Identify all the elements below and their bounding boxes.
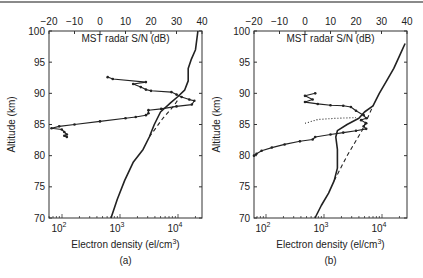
sn-profile-line <box>52 77 195 137</box>
data-marker <box>360 119 363 122</box>
data-marker <box>147 109 150 112</box>
top-tick-label: −20 <box>41 16 58 27</box>
top-tick-label: −10 <box>271 16 288 27</box>
density-profile-line <box>315 44 405 219</box>
data-marker <box>304 95 307 98</box>
data-marker <box>145 114 148 117</box>
top-tick-label: 0 <box>97 16 103 27</box>
data-marker <box>58 125 61 128</box>
data-marker <box>355 109 358 112</box>
data-marker <box>145 81 148 84</box>
data-marker <box>329 133 332 136</box>
y-tick-label: 75 <box>34 181 46 192</box>
y-tick-label: 95 <box>239 57 251 68</box>
top-axis-title: MST radar S/N (dB) <box>286 33 374 44</box>
top-axis-title: MST radar S/N (dB) <box>81 33 169 44</box>
data-marker <box>60 128 63 131</box>
data-marker <box>99 120 102 123</box>
top-tick-label: 10 <box>325 16 337 27</box>
top-tick-label: −10 <box>66 16 83 27</box>
data-marker <box>314 136 317 139</box>
bottom-tick-label: 104 <box>167 221 182 234</box>
data-marker <box>314 92 317 95</box>
y-tick-label: 80 <box>239 150 251 161</box>
data-marker <box>329 104 332 107</box>
data-marker <box>193 100 196 103</box>
data-marker <box>365 117 368 120</box>
y-tick-label: 75 <box>239 181 251 192</box>
panel-caption: (b) <box>324 255 336 266</box>
data-marker <box>50 127 53 130</box>
data-marker <box>106 76 109 79</box>
y-tick-label: 90 <box>239 88 251 99</box>
data-marker <box>175 93 178 96</box>
y-tick-label: 100 <box>233 26 250 37</box>
top-tick-label: 20 <box>145 16 157 27</box>
data-marker <box>188 98 191 101</box>
data-marker <box>311 98 314 101</box>
y-tick-label: 80 <box>34 150 46 161</box>
data-marker <box>66 133 69 136</box>
data-marker <box>124 117 127 120</box>
data-marker <box>170 91 173 94</box>
data-marker <box>175 105 178 108</box>
y-tick-label: 100 <box>28 26 45 37</box>
data-marker <box>63 131 66 134</box>
bottom-tick-label: 102 <box>255 221 270 234</box>
data-marker <box>140 86 143 89</box>
y-tick-label: 95 <box>34 57 46 68</box>
data-marker <box>342 131 345 134</box>
data-marker <box>73 123 76 126</box>
y-tick-label: 85 <box>34 119 46 130</box>
top-tick-label: 30 <box>171 16 183 27</box>
data-marker <box>311 138 314 141</box>
data-marker <box>191 103 194 106</box>
y-tick-label: 85 <box>239 119 251 130</box>
data-marker <box>150 90 153 93</box>
top-tick-label: 40 <box>401 16 413 27</box>
panel-caption: (a) <box>119 255 131 266</box>
data-marker <box>299 140 302 143</box>
top-tick-label: −20 <box>246 16 263 27</box>
data-marker <box>145 88 148 91</box>
data-marker <box>316 103 319 106</box>
data-marker <box>134 116 137 119</box>
figure-canvas: 707580859095100−20−10010203040102103104M… <box>0 0 423 278</box>
data-marker <box>260 149 263 152</box>
data-marker <box>180 96 183 99</box>
data-marker <box>147 112 150 115</box>
data-marker <box>304 101 307 104</box>
data-marker <box>283 143 286 146</box>
data-marker <box>365 122 368 125</box>
y-tick-label: 90 <box>34 88 46 99</box>
data-marker <box>271 146 274 149</box>
y-axis-title: Altitude (km) <box>6 96 17 152</box>
data-marker <box>365 128 368 131</box>
panel-a: 707580859095100−20−10010203040102103104M… <box>6 16 208 266</box>
density-dashed-line <box>334 106 373 181</box>
data-marker <box>160 108 163 111</box>
data-marker <box>342 105 345 108</box>
y-tick-label: 70 <box>239 213 251 224</box>
data-marker <box>132 83 135 86</box>
y-tick-label: 70 <box>34 213 46 224</box>
bottom-tick-label: 102 <box>51 221 66 234</box>
data-marker <box>253 154 256 157</box>
data-marker <box>255 152 258 155</box>
bottom-axis-title: Electron density (el/cm3) <box>276 238 384 250</box>
top-tick-label: 20 <box>350 16 362 27</box>
top-tick-label: 0 <box>302 16 308 27</box>
density-profile-line <box>111 31 198 218</box>
top-tick-label: 30 <box>376 16 388 27</box>
data-marker <box>362 114 365 117</box>
density-dashed-line <box>149 100 178 137</box>
data-marker <box>66 136 69 139</box>
data-marker <box>350 106 353 109</box>
data-marker <box>362 125 365 128</box>
y-axis-title: Altitude (km) <box>211 96 222 152</box>
bottom-axis-title: Electron density (el/cm3) <box>71 238 179 250</box>
sn-dotted-line <box>305 118 356 124</box>
panel-b: 707580859095100−20−10010203040102103104M… <box>211 16 413 266</box>
data-marker <box>63 134 66 137</box>
sn-profile-line <box>254 93 366 155</box>
